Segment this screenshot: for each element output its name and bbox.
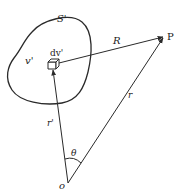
source-position-vector xyxy=(53,70,68,183)
separation-vector-R xyxy=(59,37,163,63)
angle-arc xyxy=(65,158,81,163)
volume-label: v' xyxy=(25,55,33,66)
angle-label: θ xyxy=(71,148,77,158)
separation-label: R xyxy=(112,35,121,46)
volume-element-cube xyxy=(48,59,59,69)
surface-label: S' xyxy=(57,13,67,24)
source-position-label: r' xyxy=(47,118,54,128)
field-point-label: P xyxy=(167,31,174,42)
field-position-vector xyxy=(68,38,163,183)
volume-element-label: dv' xyxy=(50,48,63,58)
field-position-label: r xyxy=(128,90,133,100)
origin-label: o xyxy=(59,180,65,191)
diagram-canvas: S' v' dv' R P r r' o θ xyxy=(0,0,186,191)
